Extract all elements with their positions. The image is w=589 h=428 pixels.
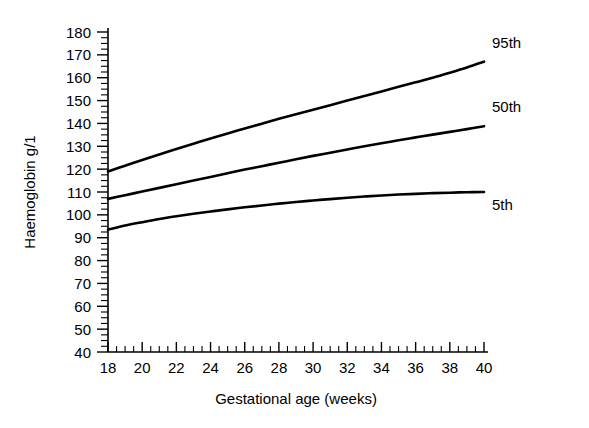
x-tick-label: 34 bbox=[373, 359, 390, 376]
y-tick-label: 130 bbox=[66, 138, 91, 155]
x-tick-label: 24 bbox=[202, 359, 219, 376]
x-tick-label: 20 bbox=[134, 359, 151, 376]
centile-label-50th: 50th bbox=[492, 98, 521, 115]
y-tick-label: 90 bbox=[74, 229, 91, 246]
y-tick-label: 80 bbox=[74, 252, 91, 269]
x-tick-label: 40 bbox=[476, 359, 493, 376]
y-tick-label: 120 bbox=[66, 161, 91, 178]
y-tick-label: 40 bbox=[74, 344, 91, 361]
y-tick-label: 60 bbox=[74, 298, 91, 315]
y-tick-label: 110 bbox=[67, 184, 91, 201]
y-tick-label: 50 bbox=[74, 321, 91, 338]
x-tick-label: 32 bbox=[339, 359, 356, 376]
haemoglobin-centile-chart: 405060708090100110120130140150160170180 … bbox=[0, 0, 589, 428]
y-tick-label: 160 bbox=[66, 69, 91, 86]
y-tick-label: 70 bbox=[74, 275, 91, 292]
x-tick-label: 38 bbox=[441, 359, 458, 376]
x-tick-label: 18 bbox=[100, 359, 117, 376]
y-tick-label: 180 bbox=[66, 24, 91, 41]
y-tick-label: 140 bbox=[66, 115, 91, 132]
x-tick-label: 36 bbox=[407, 359, 424, 376]
x-tick-label: 30 bbox=[305, 359, 322, 376]
x-tick-label: 26 bbox=[236, 359, 253, 376]
x-tick-label: 28 bbox=[271, 359, 288, 376]
x-tick-label: 22 bbox=[168, 359, 185, 376]
y-axis-title: Haemoglobin g/1 bbox=[21, 135, 38, 248]
chart-svg: 405060708090100110120130140150160170180 … bbox=[0, 0, 589, 428]
y-tick-label: 170 bbox=[66, 46, 91, 63]
centile-label-5th: 5th bbox=[492, 196, 513, 213]
y-tick-label: 100 bbox=[66, 206, 91, 223]
y-tick-label: 150 bbox=[66, 92, 91, 109]
centile-label-95th: 95th bbox=[492, 34, 521, 51]
x-axis-title: Gestational age (weeks) bbox=[215, 390, 377, 407]
